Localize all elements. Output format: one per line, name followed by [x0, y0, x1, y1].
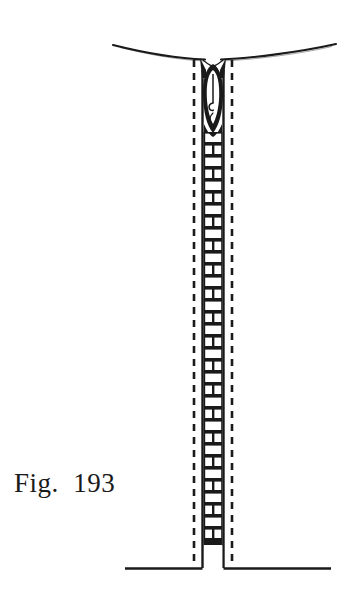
- figure-caption: Fig. 193: [14, 468, 115, 499]
- figure-page: Fig. 193: [0, 0, 348, 606]
- figure-illustration: [0, 0, 348, 606]
- page-background: [0, 0, 348, 606]
- lower-open-chamber: [205, 546, 222, 568]
- brick-pattern-cells: [204, 132, 223, 568]
